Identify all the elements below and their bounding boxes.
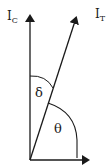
theta-symbol: θ <box>54 121 62 136</box>
ic-label: IC <box>7 9 18 25</box>
it-label: IT <box>95 7 106 23</box>
delta-symbol: δ <box>35 85 43 100</box>
theta-angle-arc <box>48 103 77 158</box>
phasor-diagram: IC IT δ θ <box>0 0 112 168</box>
